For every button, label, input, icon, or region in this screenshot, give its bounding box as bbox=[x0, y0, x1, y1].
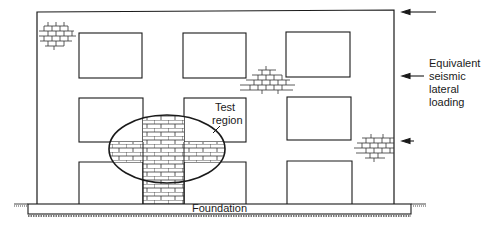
test-region-label-line2: region bbox=[212, 114, 243, 127]
window-r1-c1 bbox=[79, 33, 142, 78]
window-r2-c1 bbox=[79, 98, 143, 142]
window-r1-c3 bbox=[286, 32, 350, 77]
building-diagram bbox=[0, 0, 487, 232]
window-r3-c1 bbox=[79, 162, 143, 204]
window-r1-c2 bbox=[183, 33, 246, 78]
loading-label-line1: Equivalent bbox=[429, 57, 480, 70]
brick-patch-top-left bbox=[39, 22, 76, 50]
loading-label-line3: lateral bbox=[429, 83, 459, 96]
loading-label-line4: loading bbox=[429, 96, 464, 109]
brick-patch-right bbox=[354, 134, 394, 162]
test-region-label-line1: Test bbox=[215, 101, 235, 114]
foundation-label: Foundation bbox=[192, 202, 247, 215]
window-r3-c3 bbox=[287, 161, 352, 204]
loading-label-line2: seismic bbox=[429, 70, 466, 83]
window-r2-c3 bbox=[287, 97, 351, 140]
